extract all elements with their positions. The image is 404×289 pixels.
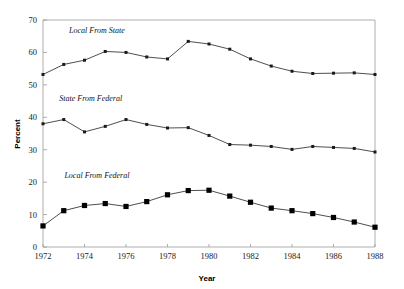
data-point (374, 150, 377, 153)
data-point (62, 63, 65, 66)
data-point (352, 219, 357, 224)
data-point (269, 205, 274, 210)
data-point (291, 70, 294, 73)
x-tick-label: 1972 (35, 251, 52, 261)
data-point (104, 50, 107, 53)
x-tick-label: 1984 (284, 251, 302, 261)
series-line-0 (43, 41, 375, 74)
y-tick-label: 40 (29, 112, 38, 122)
data-point (249, 57, 252, 60)
series-label: State From Federal (59, 94, 123, 103)
data-point (331, 215, 336, 220)
data-point (42, 73, 45, 76)
series-annotations: Local From StateState From FederalLocal … (59, 26, 130, 180)
data-point (270, 145, 273, 148)
data-point (372, 225, 377, 230)
x-tick-label: 1978 (159, 251, 176, 261)
data-point (166, 126, 169, 129)
data-point (103, 201, 108, 206)
data-point (289, 208, 294, 213)
data-point (249, 144, 252, 147)
data-point (42, 122, 45, 125)
data-point (125, 51, 128, 54)
y-tick-label: 10 (29, 210, 38, 220)
data-point (248, 200, 253, 205)
data-point (353, 147, 356, 150)
data-point (83, 130, 86, 133)
data-point (62, 118, 65, 121)
data-point (228, 143, 231, 146)
chart-container: 197219741976197819801982198419861988 010… (0, 0, 404, 289)
data-point (311, 72, 314, 75)
series-label: Local From State (68, 26, 125, 35)
x-tick-label: 1976 (118, 251, 135, 261)
data-point (291, 148, 294, 151)
data-point (125, 118, 128, 121)
data-point (187, 40, 190, 43)
x-tick-label: 1986 (325, 251, 342, 261)
data-point (123, 204, 128, 209)
x-tick-label: 1974 (76, 251, 94, 261)
y-tick-label: 50 (29, 80, 38, 90)
data-point (61, 208, 66, 213)
y-tick-label: 70 (29, 15, 38, 25)
plot-border (43, 20, 375, 247)
data-point (374, 73, 377, 76)
y-axis-title: Percent (13, 119, 22, 149)
data-point (166, 57, 169, 60)
series-label: Local From Federal (63, 171, 130, 180)
y-tick-label: 60 (29, 47, 38, 57)
data-point (83, 59, 86, 62)
data-point (40, 223, 45, 228)
y-axis-ticks: 010203040506070 (29, 15, 48, 252)
data-point (144, 199, 149, 204)
data-point (208, 43, 211, 46)
data-point (227, 193, 232, 198)
data-point (187, 126, 190, 129)
data-point (311, 145, 314, 148)
x-axis-ticks: 197219741976197819801982198419861988 (35, 244, 384, 261)
data-point (82, 203, 87, 208)
series-layer (40, 40, 377, 230)
data-point (145, 123, 148, 126)
x-tick-label: 1988 (367, 251, 384, 261)
data-point (208, 134, 211, 137)
data-point (228, 48, 231, 51)
data-point (145, 55, 148, 58)
data-point (310, 211, 315, 216)
x-tick-label: 1982 (242, 251, 259, 261)
data-point (270, 65, 273, 68)
y-tick-label: 20 (29, 177, 38, 187)
x-tick-label: 1980 (201, 251, 218, 261)
line-chart: 197219741976197819801982198419861988 010… (0, 0, 404, 289)
data-point (332, 72, 335, 75)
data-point (353, 71, 356, 74)
y-tick-label: 0 (33, 242, 37, 252)
data-point (165, 192, 170, 197)
data-point (332, 146, 335, 149)
data-point (186, 188, 191, 193)
data-point (104, 125, 107, 128)
x-axis-title: Year (199, 274, 216, 283)
data-point (206, 188, 211, 193)
plot-frame (43, 20, 375, 247)
series-line-2 (43, 190, 375, 227)
y-tick-label: 30 (29, 145, 38, 155)
